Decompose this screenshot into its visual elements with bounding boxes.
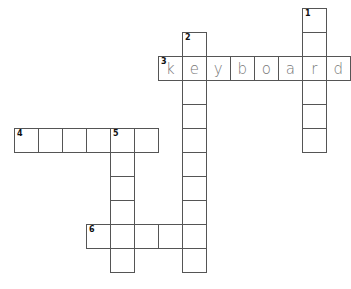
crossword-cell[interactable]	[182, 248, 207, 273]
clue-number: 2	[185, 33, 191, 42]
crossword-cell[interactable]	[182, 128, 207, 153]
crossword-cell[interactable]	[158, 224, 183, 249]
crossword-cell[interactable]: b	[230, 56, 255, 81]
crossword-cell[interactable]: 5	[110, 128, 135, 153]
cell-letter: e	[190, 60, 199, 77]
crossword-cell[interactable]	[62, 128, 87, 153]
crossword-cell[interactable]: 2	[182, 32, 207, 57]
crossword-cell[interactable]	[302, 80, 327, 105]
cell-letter: r	[311, 60, 317, 77]
crossword-cell[interactable]: 4	[14, 128, 39, 153]
crossword-cell[interactable]	[182, 176, 207, 201]
crossword-cell[interactable]	[302, 32, 327, 57]
crossword-cell[interactable]	[110, 248, 135, 273]
clue-number: 4	[17, 129, 23, 138]
crossword-cell[interactable]: y	[206, 56, 231, 81]
crossword-grid: 1r2e3kyboad456	[0, 0, 351, 289]
clue-number: 5	[113, 129, 119, 138]
crossword-cell[interactable]	[110, 200, 135, 225]
crossword-cell[interactable]: e	[182, 56, 207, 81]
crossword-cell[interactable]	[182, 152, 207, 177]
clue-number: 6	[89, 225, 95, 234]
crossword-cell[interactable]	[86, 128, 111, 153]
crossword-cell[interactable]	[110, 152, 135, 177]
crossword-cell[interactable]	[182, 200, 207, 225]
crossword-cell[interactable]: d	[326, 56, 351, 81]
crossword-cell[interactable]	[38, 128, 63, 153]
crossword-cell[interactable]	[134, 224, 159, 249]
crossword-cell[interactable]	[302, 128, 327, 153]
crossword-cell[interactable]	[182, 224, 207, 249]
crossword-cell[interactable]: o	[254, 56, 279, 81]
crossword-cell[interactable]: 6	[86, 224, 111, 249]
crossword-cell[interactable]: a	[278, 56, 303, 81]
crossword-cell[interactable]	[110, 224, 135, 249]
crossword-cell[interactable]	[110, 176, 135, 201]
cell-letter: o	[262, 60, 271, 77]
crossword-cell[interactable]: 3k	[158, 56, 183, 81]
cell-letter: a	[286, 60, 295, 77]
crossword-cell[interactable]: r	[302, 56, 327, 81]
clue-number: 3	[161, 57, 167, 66]
cell-letter: d	[333, 60, 343, 77]
cell-letter: k	[166, 60, 175, 77]
clue-number: 1	[305, 9, 311, 18]
crossword-cell[interactable]	[182, 104, 207, 129]
crossword-cell[interactable]: 1	[302, 8, 327, 33]
cell-letter: b	[237, 60, 247, 77]
cell-letter: y	[214, 60, 223, 77]
crossword-cell[interactable]	[182, 80, 207, 105]
crossword-cell[interactable]	[134, 128, 159, 153]
crossword-cell[interactable]	[302, 104, 327, 129]
